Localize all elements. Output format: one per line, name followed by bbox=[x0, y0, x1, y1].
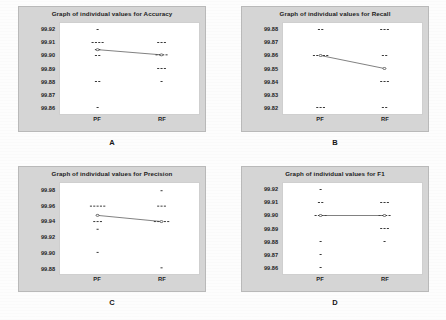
group-mean-marker bbox=[319, 54, 322, 56]
data-point bbox=[98, 81, 100, 82]
y-axis-tick: 99.90 bbox=[41, 250, 55, 256]
data-point bbox=[383, 81, 385, 82]
group-mean-marker bbox=[383, 214, 386, 216]
x-axis-labels-f1: PFRF bbox=[282, 276, 423, 288]
panel-grid: Graph of individual values for Accuracy … bbox=[0, 0, 446, 320]
chart-title-accuracy: Graph of individual values for Accuracy bbox=[19, 10, 205, 17]
data-point bbox=[97, 107, 99, 108]
y-axis-tick: 99.92 bbox=[41, 26, 55, 32]
data-point bbox=[90, 206, 92, 207]
data-point bbox=[102, 42, 104, 43]
data-point bbox=[318, 29, 320, 30]
data-layer-recall bbox=[283, 23, 422, 114]
chart-panel-accuracy: Graph of individual values for Accuracy … bbox=[18, 6, 206, 132]
data-point bbox=[313, 55, 315, 56]
data-point bbox=[321, 29, 323, 30]
y-axis-tick: 99.89 bbox=[264, 226, 278, 232]
data-point bbox=[320, 107, 322, 108]
data-point bbox=[383, 29, 385, 30]
data-point bbox=[320, 254, 322, 255]
panel-letter-b: B bbox=[241, 138, 429, 147]
y-axis-tick: 99.85 bbox=[264, 66, 278, 72]
y-axis-tick: 99.90 bbox=[264, 212, 278, 218]
data-point bbox=[157, 42, 159, 43]
y-axis-labels-recall: 99.8899.8799.8699.8599.8499.8399.82 bbox=[242, 22, 280, 115]
data-point bbox=[166, 54, 168, 55]
y-axis-tick: 99.86 bbox=[264, 52, 278, 58]
data-point bbox=[320, 189, 322, 190]
panel-cell-c: Graph of individual values for Precision… bbox=[0, 160, 223, 320]
chart-title-f1: Graph of individual values for F1 bbox=[242, 170, 428, 177]
plot-area-precision bbox=[59, 182, 200, 275]
data-point bbox=[164, 221, 166, 222]
plot-area-recall bbox=[282, 22, 423, 115]
y-axis-tick: 99.88 bbox=[264, 239, 278, 245]
data-point bbox=[97, 29, 99, 30]
data-point bbox=[380, 29, 382, 30]
figure-page: Graph of individual values for Accuracy … bbox=[0, 0, 446, 320]
data-point bbox=[164, 42, 166, 43]
x-axis-tick: RF bbox=[381, 276, 389, 282]
panel-cell-a: Graph of individual values for Accuracy … bbox=[0, 0, 223, 160]
data-point bbox=[95, 42, 97, 43]
data-point bbox=[160, 68, 162, 69]
data-point bbox=[160, 190, 162, 191]
y-axis-tick: 99.83 bbox=[264, 92, 278, 98]
data-point bbox=[382, 55, 384, 56]
data-point bbox=[316, 107, 318, 108]
y-axis-tick: 99.82 bbox=[264, 105, 278, 111]
x-axis-tick: RF bbox=[158, 276, 166, 282]
chart-panel-f1: Graph of individual values for F1 99.929… bbox=[241, 166, 429, 292]
data-point bbox=[97, 221, 99, 222]
data-point bbox=[326, 55, 328, 56]
panel-letter-a: A bbox=[18, 138, 206, 147]
data-point bbox=[383, 228, 385, 229]
data-layer-accuracy bbox=[60, 23, 199, 114]
x-axis-tick: RF bbox=[158, 116, 166, 122]
y-axis-tick: 99.86 bbox=[264, 265, 278, 271]
data-point bbox=[164, 68, 166, 69]
data-layer-precision bbox=[60, 183, 199, 274]
y-axis-tick: 99.88 bbox=[41, 79, 55, 85]
data-point bbox=[382, 107, 384, 108]
y-axis-labels-precision: 99.9899.9699.9499.9299.9099.88 bbox=[19, 182, 57, 275]
group-mean-marker bbox=[383, 67, 386, 69]
data-point bbox=[387, 29, 389, 30]
data-point bbox=[95, 55, 97, 56]
data-point bbox=[100, 221, 102, 222]
data-point bbox=[385, 107, 387, 108]
x-axis-tick: PF bbox=[93, 116, 100, 122]
group-mean-marker bbox=[96, 214, 99, 216]
y-axis-labels-f1: 99.9299.9199.9099.8999.8899.8799.86 bbox=[242, 182, 280, 275]
data-point bbox=[98, 42, 100, 43]
panel-cell-d: Graph of individual values for F1 99.929… bbox=[223, 160, 446, 320]
data-point bbox=[97, 206, 99, 207]
data-point bbox=[103, 206, 105, 207]
data-point bbox=[387, 202, 389, 203]
chart-title-recall: Graph of individual values for Recall bbox=[242, 10, 428, 17]
chart-panel-precision: Graph of individual values for Precision… bbox=[18, 166, 206, 292]
data-point bbox=[93, 206, 95, 207]
y-axis-tick: 99.88 bbox=[264, 26, 278, 32]
y-axis-tick: 99.96 bbox=[41, 203, 55, 209]
x-axis-tick: PF bbox=[316, 276, 323, 282]
data-point bbox=[164, 206, 166, 207]
y-axis-tick: 99.92 bbox=[264, 186, 278, 192]
y-axis-tick: 99.87 bbox=[41, 92, 55, 98]
data-point bbox=[387, 81, 389, 82]
x-axis-tick: PF bbox=[93, 276, 100, 282]
y-axis-tick: 99.88 bbox=[41, 266, 55, 272]
data-point bbox=[93, 221, 95, 222]
x-axis-labels-precision: PFRF bbox=[59, 276, 200, 288]
plot-area-f1 bbox=[282, 182, 423, 275]
data-point bbox=[321, 202, 323, 203]
data-point bbox=[160, 42, 162, 43]
group-mean-marker bbox=[160, 54, 163, 56]
data-point bbox=[383, 241, 385, 242]
data-point bbox=[380, 202, 382, 203]
data-point bbox=[387, 228, 389, 229]
y-axis-tick: 99.98 bbox=[41, 187, 55, 193]
group-mean-marker bbox=[319, 214, 322, 216]
data-point bbox=[318, 202, 320, 203]
group-mean-marker bbox=[96, 49, 99, 51]
